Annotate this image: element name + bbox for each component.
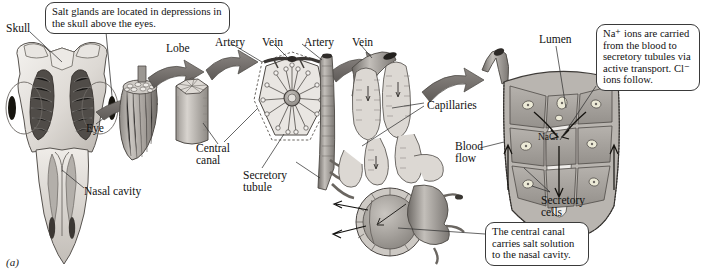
callout-salt-glands-location: Salt glands are located in depressions i… — [45, 2, 230, 34]
callout-central-canal-function: The central canal carries salt solution … — [485, 222, 589, 266]
leader-blood-flow — [480, 142, 504, 148]
leader-secretory-tubule — [262, 134, 284, 168]
callout-line: secretory tubules via — [603, 51, 691, 62]
magnify-arrow-5 — [422, 68, 484, 102]
label-lobe: Lobe — [166, 42, 190, 54]
label-vein-2: Vein — [352, 36, 373, 48]
callout-line: Na⁺ ions are carried — [603, 28, 689, 39]
label-artery-2: Artery — [304, 36, 334, 48]
callout-sodium-transport: Na⁺ ions are carried from the blood to s… — [596, 24, 700, 91]
callout-line: to the nasal cavity. — [492, 249, 571, 260]
leader-secretory-tubule-2 — [296, 162, 320, 178]
leader-salt-glands-callout — [106, 32, 112, 96]
callout-line: active transport. Cl⁻ — [603, 63, 690, 74]
label-nasal-cavity: Nasal cavity — [84, 185, 141, 197]
label-vein-1: Vein — [262, 36, 283, 48]
callout-line: from the blood to — [603, 40, 677, 51]
label-blood-flow: Blood flow — [455, 140, 483, 164]
label-eye: Eye — [86, 122, 104, 134]
callout-line: carries salt solution — [492, 238, 574, 249]
stage-skull — [6, 32, 118, 264]
label-secretory-tubule: Secretory tubule — [243, 169, 287, 193]
callout-line: ions follow. — [603, 74, 653, 85]
label-capillaries: Capillaries — [427, 99, 477, 111]
callout-line: The central canal — [492, 226, 565, 237]
callout-line: Salt glands are located in depressions — [52, 6, 211, 17]
label-skull: Skull — [6, 22, 30, 34]
label-central-canal: Central canal — [196, 142, 230, 166]
figure-marker: (a) — [6, 256, 19, 268]
leader-central-canal — [224, 108, 258, 142]
label-secretory-cells: Secretory cells — [541, 194, 585, 218]
label-artery-1: Artery — [215, 36, 245, 48]
label-nacl: NaCl — [538, 132, 558, 142]
stage-lobe — [176, 78, 208, 144]
label-lumen: Lumen — [539, 33, 572, 45]
